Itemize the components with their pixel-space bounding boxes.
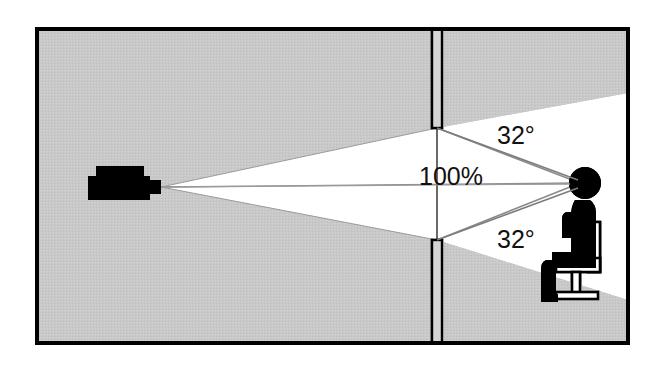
person-arm-overlay <box>562 212 574 238</box>
wall-segment-upper-overlay <box>432 27 442 128</box>
room-interior <box>37 27 628 345</box>
projector-lens <box>150 180 161 194</box>
projector-top-box <box>96 166 144 177</box>
wall-segment-lower-overlay <box>432 240 442 345</box>
label-upper-viewing-angle: 32° <box>497 121 535 149</box>
chair-base-overlay <box>556 292 598 299</box>
projector-body <box>88 176 150 200</box>
person-torso-overlay <box>571 200 596 256</box>
person-foot-overlay <box>541 294 558 302</box>
projection-diagram: 32° 100% 32° <box>0 0 659 366</box>
person-thigh-overlay <box>552 252 596 268</box>
label-lower-viewing-angle: 32° <box>497 225 535 253</box>
label-image-coverage: 100% <box>419 162 483 190</box>
diagram-canvas: 32° 100% 32° <box>0 0 659 366</box>
person-head-overlay <box>569 167 601 199</box>
